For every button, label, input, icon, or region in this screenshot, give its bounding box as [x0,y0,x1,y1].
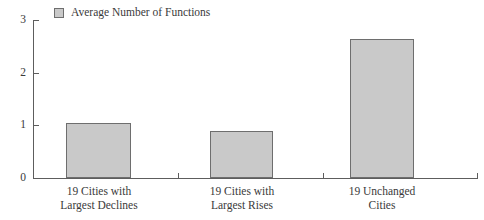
y-axis-line [33,20,34,179]
x-category-label-2-line-2: Cities [321,198,443,212]
x-axis-line [33,178,478,179]
x-category-label-0-line-1: 19 Cities with [38,184,160,198]
bar-19-cities-with-largest-declines [66,123,131,178]
x-category-label-0-line-2: Largest Declines [38,198,160,212]
bar-19-unchanged-cities [350,39,414,178]
y-tick-label-1: 1 [2,119,26,131]
x-tick-mark-3 [477,173,478,178]
x-category-label-1-line-2: Largest Rises [181,198,303,212]
bar-19-cities-with-largest-rises [210,131,273,178]
x-tick-mark-0 [33,173,34,178]
x-tick-mark-2 [323,173,324,178]
y-tick-label-0: 0 [2,172,26,184]
y-tick-mark-1 [34,125,39,126]
x-category-label-2: 19 Unchanged Cities [321,184,443,212]
y-tick-mark-0 [34,178,39,179]
x-category-label-1: 19 Cities with Largest Rises [181,184,303,212]
y-tick-label-3: 3 [2,14,26,26]
x-category-label-1-line-1: 19 Cities with [181,184,303,198]
y-tick-label-2: 2 [2,67,26,79]
x-category-label-2-line-1: 19 Unchanged [321,184,443,198]
plot-area: 0 1 2 3 19 Cities with Largest Declines … [0,0,484,220]
y-tick-mark-3 [34,20,39,21]
bar-chart-figure: Average Number of Functions 0 1 2 3 19 C… [0,0,484,220]
x-tick-mark-1 [178,173,179,178]
x-category-label-0: 19 Cities with Largest Declines [38,184,160,212]
y-tick-mark-2 [34,73,39,74]
